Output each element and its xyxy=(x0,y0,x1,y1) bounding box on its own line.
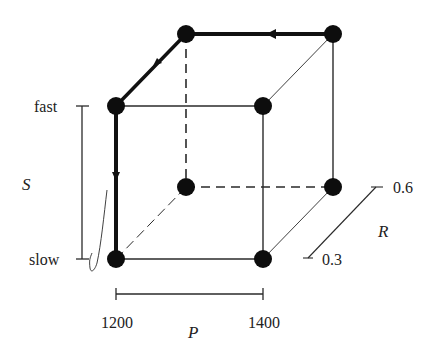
node-back-bottom-left xyxy=(177,178,195,196)
edge-bottom-right-depth xyxy=(263,187,333,259)
node-front-top-right xyxy=(254,97,272,115)
arrow-left-icon xyxy=(266,29,276,39)
s-axis-high-label: fast xyxy=(34,98,58,115)
node-back-bottom-right xyxy=(324,178,342,196)
p-axis-bracket xyxy=(116,288,263,300)
curved-annotation xyxy=(90,190,107,271)
path-segment-top-depth xyxy=(116,34,186,106)
s-axis-low-label: slow xyxy=(29,251,60,268)
s-axis-bracket xyxy=(76,106,89,259)
node-front-bottom-right xyxy=(254,250,272,268)
node-front-top-left xyxy=(107,97,125,115)
p-axis-label: P xyxy=(187,323,198,342)
node-front-bottom-left xyxy=(107,250,125,268)
node-back-top-left xyxy=(177,25,195,43)
node-back-top-right xyxy=(324,25,342,43)
search-path xyxy=(112,29,333,259)
s-axis-label: S xyxy=(22,175,31,194)
cube-diagram: fast slow S 1200 1400 P 0.3 0.6 R xyxy=(0,0,440,363)
p-axis-high-label: 1400 xyxy=(248,314,280,331)
edge-top-right-depth xyxy=(263,34,333,106)
r-axis-bracket xyxy=(303,187,383,258)
edge-bottom-left-depth xyxy=(116,187,186,259)
r-axis-low-label: 0.3 xyxy=(322,251,342,268)
r-axis-high-label: 0.6 xyxy=(393,179,413,196)
p-axis-low-label: 1200 xyxy=(101,314,133,331)
arrow-down-icon xyxy=(112,172,120,181)
r-axis-label: R xyxy=(377,222,389,241)
